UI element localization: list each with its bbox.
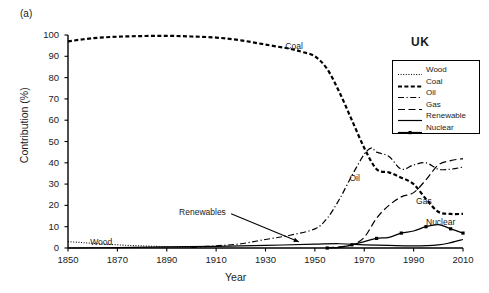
legend-label: Gas [426,100,441,109]
legend-label: Wood [426,65,447,74]
series-line-renewable [68,239,463,248]
figure-panel: (a) UK Contribution (%) Year WoodCoalOil… [0,0,489,293]
x-axis-tick-label: 1850 [48,255,88,265]
legend-label: Renewable [426,111,466,120]
y-axis-tick-label: 90 [33,51,59,61]
series-marker-nuclear [326,246,329,249]
annotation-renewables: Renewables [179,208,226,217]
legend: WoodCoalOilGasRenewableNuclear [392,60,480,134]
y-axis-tick-label: 0 [33,243,59,253]
x-axis-tick-label: 1910 [196,255,236,265]
legend-swatch-renewable-icon [397,111,423,120]
legend-item-coal[interactable]: Coal [397,76,442,87]
x-axis-tick-label: 1970 [344,255,384,265]
y-axis-tick-label: 20 [33,200,59,210]
legend-item-nuclear[interactable]: Nuclear [397,122,454,133]
y-axis-tick-label: 100 [33,30,59,40]
series-line-gas [327,159,463,248]
y-axis-tick-label: 10 [33,222,59,232]
legend-swatch-nuclear-icon [397,123,423,132]
series-marker-nuclear [350,243,353,246]
legend-swatch-gas-icon [397,100,423,109]
legend-item-wood[interactable]: Wood [397,64,447,75]
y-axis-tick-label: 70 [33,94,59,104]
y-axis-tick-label: 50 [33,137,59,147]
x-axis-tick-label: 1950 [295,255,335,265]
series-marker-nuclear [461,231,464,234]
legend-label: Coal [426,77,442,86]
annotation-gas: Gas [416,197,432,206]
y-axis-tick-label: 80 [33,73,59,83]
legend-swatch-coal-icon [397,77,423,86]
plot-area [0,0,489,293]
annotation-group [231,214,299,242]
x-axis-tick-label: 1870 [97,255,137,265]
annotation-coal: Coal [285,42,302,51]
annotation-nuclear: Nuclear [426,218,455,227]
x-axis-tick-label: 1930 [246,255,286,265]
legend-swatch-oil-icon [397,88,423,97]
legend-swatch-wood-icon [397,65,423,74]
annotation-arrow-line [231,214,299,242]
legend-label: Nuclear [426,123,454,132]
x-axis-tick-label: 2010 [443,255,483,265]
series-marker-nuclear [400,231,403,234]
annotation-wood: Wood [90,238,112,247]
y-axis-tick-label: 60 [33,115,59,125]
series-marker-nuclear [375,237,378,240]
legend-label: Oil [426,88,436,97]
y-axis-tick-label: 40 [33,158,59,168]
y-axis-tick-label: 30 [33,179,59,189]
annotation-oil: Oil [349,174,359,183]
x-axis-tick-label: 1890 [147,255,187,265]
series-marker-nuclear [449,227,452,230]
legend-item-oil[interactable]: Oil [397,87,436,98]
legend-item-renewable[interactable]: Renewable [397,110,466,121]
legend-item-gas[interactable]: Gas [397,99,441,110]
x-axis-tick-label: 1990 [394,255,434,265]
